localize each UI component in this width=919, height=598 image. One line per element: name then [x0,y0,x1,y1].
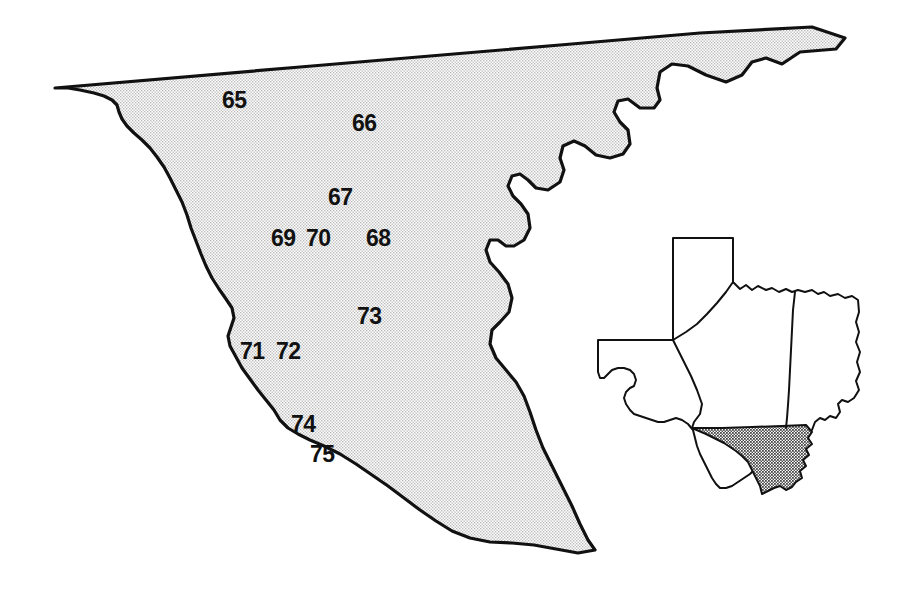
map-canvas [0,0,919,598]
region-label-73: 73 [357,305,382,328]
region-label-66: 66 [352,112,377,135]
region-label-69: 69 [271,227,296,250]
region-label-67: 67 [328,186,353,209]
map-figure: 65 66 67 69 70 68 73 71 72 74 75 [0,0,919,598]
region-label-74: 74 [291,413,316,436]
region-label-68: 68 [366,227,391,250]
texas-inset-group [598,238,860,494]
region-label-70: 70 [306,227,331,250]
region-label-75: 75 [310,443,335,466]
region-label-65: 65 [222,89,247,112]
texas-state-outline-icon [598,238,860,488]
region-label-72: 72 [276,340,301,363]
region-label-71: 71 [240,340,265,363]
